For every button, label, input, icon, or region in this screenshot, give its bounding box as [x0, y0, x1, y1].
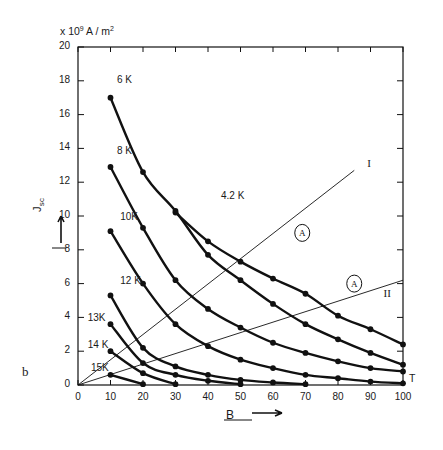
x-tick-label: 10: [105, 391, 116, 402]
data-point: [140, 169, 146, 175]
data-point: [303, 291, 309, 297]
data-point: [270, 301, 276, 307]
x-tick-label: 20: [137, 391, 148, 402]
y-tick-label: 6: [64, 277, 70, 288]
y-tick-label: 10: [59, 209, 70, 220]
data-point: [400, 342, 406, 348]
reference-line-label-I: I: [367, 157, 371, 169]
y-axis-arrow-icon: [58, 216, 64, 243]
series-label-13-K: 13K: [88, 312, 106, 323]
x-tick-label: 0: [75, 391, 81, 402]
y-tick-label: 0: [64, 378, 70, 389]
data-point: [270, 276, 276, 282]
x-axis-unit: T: [409, 372, 415, 384]
data-point: [400, 380, 406, 386]
series-curve-14-K: [111, 351, 176, 384]
data-point: [108, 95, 114, 101]
data-point: [140, 381, 146, 387]
x-tick-label: 30: [170, 391, 181, 402]
x-tick-label: 90: [365, 391, 376, 402]
annotation-circled-a: A: [347, 275, 362, 292]
data-point: [173, 321, 179, 327]
data-point: [238, 325, 244, 331]
series-curve-15-K: [111, 375, 144, 384]
data-point: [108, 348, 114, 354]
data-point: [238, 259, 244, 265]
series-curve-4.2-K: [176, 213, 404, 345]
y-axis-units-text: x 109 A / m2: [60, 25, 114, 37]
data-point: [173, 381, 179, 387]
data-point: [205, 238, 211, 244]
data-point: [173, 364, 179, 370]
figure-panel-b: AA b x 109 A / m2 Jsc B T 01020304050607…: [0, 0, 443, 450]
reference-line-label-II: II: [384, 287, 391, 299]
data-point: [303, 381, 309, 387]
data-point: [238, 381, 244, 387]
svg-text:A: A: [299, 228, 306, 238]
y-axis-units: x 109 A / m2: [60, 24, 114, 37]
data-point: [270, 340, 276, 346]
data-point: [335, 336, 341, 342]
y-axis-label: Jsc: [31, 198, 46, 212]
data-point: [173, 208, 179, 214]
y-tick-label: 12: [59, 175, 70, 186]
x-axis-label: B: [226, 408, 234, 422]
x-axis-arrow-icon: [252, 410, 282, 416]
svg-text:A: A: [351, 279, 358, 289]
series-label-12-K: 12 K: [120, 275, 141, 286]
data-point: [108, 321, 114, 327]
data-point: [270, 380, 276, 386]
data-point: [270, 365, 276, 371]
data-point: [335, 358, 341, 364]
data-point: [108, 228, 114, 234]
data-point: [303, 321, 309, 327]
y-tick-label: 2: [64, 344, 70, 355]
data-point: [173, 277, 179, 283]
data-point: [140, 225, 146, 231]
data-point: [205, 378, 211, 384]
data-point: [108, 293, 114, 299]
series-label-15-K: 15K: [91, 362, 109, 373]
y-tick-label: 8: [64, 243, 70, 254]
series-label-6-K: 6 K: [117, 74, 132, 85]
series-label-4.2-K: 4.2 K: [221, 190, 244, 201]
y-axis-label-sub: sc: [37, 198, 46, 206]
data-point: [205, 306, 211, 312]
data-point: [400, 369, 406, 375]
data-point: [140, 345, 146, 351]
data-point: [335, 375, 341, 381]
y-axis-label-text: J: [31, 206, 43, 212]
data-point: [205, 372, 211, 378]
data-point: [400, 362, 406, 368]
data-point: [205, 343, 211, 349]
x-tick-label: 60: [267, 391, 278, 402]
x-tick-label: 40: [202, 391, 213, 402]
data-point: [140, 360, 146, 366]
data-point: [238, 277, 244, 283]
data-point: [173, 372, 179, 378]
data-point: [108, 164, 114, 170]
data-point: [303, 372, 309, 378]
series-label-10-K: 10K: [120, 211, 138, 222]
data-point: [140, 370, 146, 376]
x-tick-label: 100: [395, 391, 412, 402]
x-tick-label: 80: [332, 391, 343, 402]
series-label-14-K: 14 K: [88, 339, 109, 350]
data-point: [335, 313, 341, 319]
y-tick-label: 4: [64, 310, 70, 321]
data-point: [205, 252, 211, 258]
data-point: [238, 357, 244, 363]
data-point: [368, 350, 374, 356]
reference-line-II: [78, 280, 403, 385]
data-point: [368, 379, 374, 385]
data-point: [368, 326, 374, 332]
annotation-circled-a: A: [295, 224, 310, 241]
x-tick-label: 50: [235, 391, 246, 402]
y-tick-label: 16: [59, 108, 70, 119]
y-tick-label: 18: [59, 74, 70, 85]
panel-label: b: [22, 364, 29, 380]
series-label-8-K: 8 K: [117, 145, 132, 156]
data-point: [368, 365, 374, 371]
y-tick-label: 14: [59, 141, 70, 152]
data-point: [303, 350, 309, 356]
